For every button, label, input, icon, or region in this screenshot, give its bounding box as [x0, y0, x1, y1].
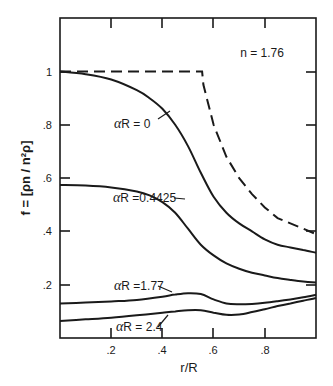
- y-tick-label: .8: [43, 119, 52, 131]
- label-ar-2-4-text: R = 2.4: [123, 320, 162, 334]
- x-axis-label: r/R: [180, 360, 197, 375]
- n-annotation: n = 1.76: [240, 46, 284, 60]
- x-tick-label: .4: [157, 344, 166, 356]
- x-tick-label: .8: [260, 344, 269, 356]
- y-tick-label: .2: [43, 279, 52, 291]
- x-tick-label: .2: [106, 344, 115, 356]
- curve-ar-0-4425: [60, 185, 316, 283]
- label-ar-1-77-text: R =1.77: [121, 279, 164, 293]
- top-ticks: [111, 18, 265, 28]
- curve-ar-0: [60, 72, 316, 253]
- y-tick-label: .6: [43, 172, 52, 184]
- y-tick-label: .4: [43, 225, 52, 237]
- label-ar-2-4: αR = 2.4: [116, 319, 163, 334]
- y-tick-label: 1: [46, 66, 52, 78]
- left-ticks: [60, 72, 70, 285]
- label-ar-1-77: αR =1.77: [114, 278, 164, 293]
- curve-dashed: [60, 72, 316, 235]
- x-tick-label: .6: [208, 344, 217, 356]
- chart: 1 .8 .6 .4 .2 .2 .4 .6 .8 r/R f = [ρn / …: [0, 0, 333, 386]
- label-ar-0: αR = 0: [114, 116, 151, 131]
- curve-ar-1-77: [60, 293, 316, 304]
- label-ar-0-4425: αR =0.4425: [113, 190, 176, 205]
- label-ar-0-4425-text: R =0.4425: [120, 191, 176, 205]
- plot-frame: [60, 18, 316, 338]
- label-ar-0-text: R = 0: [121, 117, 150, 131]
- y-axis-label: f = [ρn / n²ρ]: [18, 141, 33, 216]
